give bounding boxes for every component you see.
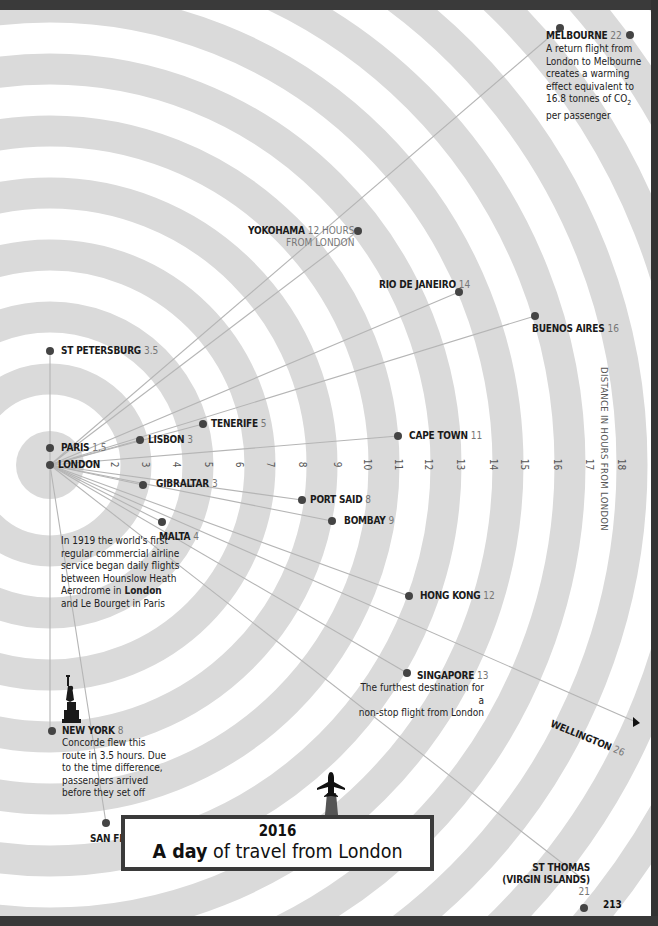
tick-18: 18 [616, 458, 627, 472]
tick-10: 10 [362, 458, 373, 472]
title-box: 2016 A day of travel from London [121, 815, 434, 871]
tick-9: 9 [332, 458, 343, 472]
tick-4: 4 [171, 458, 182, 472]
label-yokohama: YOKOHAMA 12 HOURS FROM LONDON [248, 225, 354, 249]
label-gibraltar: GIBRALTAR 3 [156, 478, 218, 490]
tick-6: 6 [234, 458, 245, 472]
label-st-petersburg: ST PETERSBURG 3.5 [61, 345, 158, 357]
label-paris: PARIS 1.5 [61, 442, 107, 454]
label-cape-town: CAPE TOWN 11 [409, 430, 482, 442]
label-port-said: PORT SAID 8 [310, 494, 371, 506]
label-bombay: BOMBAY 9 [344, 515, 394, 527]
page-frame-right [651, 0, 658, 926]
tick-14: 14 [488, 458, 499, 472]
tick-3: 3 [140, 458, 151, 472]
tick-2: 2 [109, 458, 120, 472]
page-frame-bottom [0, 916, 658, 926]
tick-11: 11 [393, 458, 404, 472]
tick-5: 5 [203, 458, 214, 472]
axis-title: DISTANCE IN HOURS FROM LONDON [599, 367, 610, 607]
note-melbourne: A return flight from London to Melbourne… [546, 43, 651, 122]
label-rio-de-janeiro: RIO DE JANEIRO 14 [379, 279, 470, 291]
label-melbourne: MELBOURNE 22 [546, 30, 622, 42]
label-buenos-aires: BUENOS AIRES 16 [532, 323, 619, 335]
title-year: 2016 [125, 823, 430, 840]
tick-13: 13 [455, 458, 466, 472]
tick-8: 8 [297, 458, 308, 472]
label-hong-kong: HONG KONG 12 [420, 590, 495, 602]
label-singapore: SINGAPORE 13 [417, 670, 489, 682]
note-new-york: Concorde flew this route in 3.5 hours. D… [62, 737, 182, 800]
tick-16: 16 [552, 458, 563, 472]
infographic-page: 2 3 4 5 6 7 8 9 10 11 12 13 14 15 16 17 … [0, 10, 651, 916]
label-lisbon: LISBON 3 [148, 434, 193, 446]
note-london-1919: In 1919 the world's first regular commer… [61, 535, 181, 610]
label-new-york: NEW YORK 8 [62, 725, 123, 737]
label-st-thomas: ST THOMAS (VIRGIN ISLANDS) 21 [520, 862, 590, 898]
tick-7: 7 [265, 458, 276, 472]
label-london: LONDON [58, 459, 100, 471]
tick-17: 17 [584, 458, 595, 472]
tick-15: 15 [519, 458, 530, 472]
page-number: 213 [603, 899, 622, 910]
note-singapore: The furthest destination for a non-stop … [354, 682, 484, 720]
tick-12: 12 [423, 458, 434, 472]
page-frame-top [0, 0, 658, 10]
label-tenerife: TENERIFE 5 [211, 418, 267, 430]
page-title: A day of travel from London [125, 840, 430, 864]
